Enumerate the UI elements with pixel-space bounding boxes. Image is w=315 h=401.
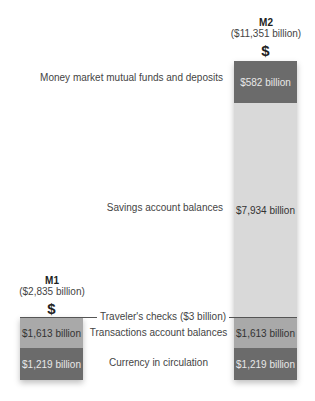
m1-title: M1 [12, 275, 92, 286]
m1-transactions-segment: $1,613 billion [20, 317, 83, 348]
m2-currency-segment: $1,219 billion [234, 348, 297, 380]
m2-transactions-segment: $1,613 billion [234, 317, 297, 348]
m1-dollar-icon: $ [20, 300, 83, 317]
m2-savings-segment: $7,934 billion [234, 103, 297, 317]
m2-money-market-segment: $582 billion [234, 61, 297, 103]
money-market-label: Money market mutual funds and deposits [0, 72, 223, 83]
m1-currency-segment: $1,219 billion [20, 348, 83, 380]
m2-dollar-icon: $ [234, 42, 297, 59]
savings-label: Savings account balances [0, 202, 223, 213]
m1-total: ($2,835 billion) [19, 286, 85, 297]
currency-label: Currency in circulation [83, 357, 234, 368]
transactions-label: Transactions account balances [83, 327, 234, 338]
m1-header: M1 ($2,835 billion) [12, 275, 92, 297]
m2-total: ($11,351 billion) [231, 28, 301, 39]
m2-header: M2 ($11,351 billion) [224, 17, 308, 39]
m2-title: M2 [224, 17, 308, 28]
travelers-checks-label: Traveler's checks ($3 billion) [97, 311, 229, 322]
